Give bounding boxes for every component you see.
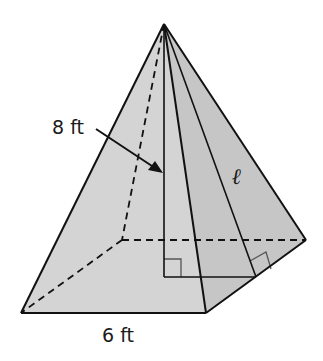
height-label: 8 ft: [52, 116, 84, 138]
base-edge-label: 6 ft: [102, 324, 134, 346]
pyramid-diagram: 8 ft 6 ft ℓ: [0, 0, 323, 361]
slant-height-label: ℓ: [232, 163, 241, 189]
